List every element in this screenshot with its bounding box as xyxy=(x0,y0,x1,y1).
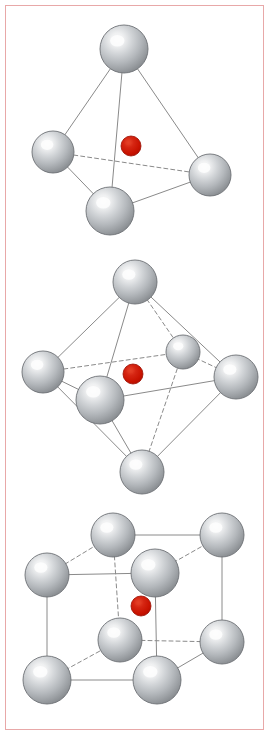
octahedral-ligand-bottom xyxy=(120,450,164,494)
octahedral-ligand-front xyxy=(76,376,124,424)
ligand-specular-highlight xyxy=(31,360,44,370)
ligand-sphere xyxy=(23,656,71,704)
ligand-specular-highlight xyxy=(100,522,113,533)
cubic-ligand-front-bottom-right xyxy=(133,656,181,704)
tetrahedral-ligand-left xyxy=(32,131,74,173)
cubic-ligand-back-top-left xyxy=(91,513,135,557)
octahedral-ligand-back xyxy=(166,335,200,369)
ligand-specular-highlight xyxy=(122,269,135,280)
ligand-sphere xyxy=(86,187,134,235)
ligand-sphere xyxy=(32,131,74,173)
ligand-sphere xyxy=(189,154,231,196)
ligand-specular-highlight xyxy=(223,364,236,375)
ligand-specular-highlight xyxy=(33,666,47,678)
ligand-specular-highlight xyxy=(41,140,54,150)
cubic-ligand-back-bottom-left xyxy=(98,618,142,662)
cubic-coordination-center-atom xyxy=(131,596,151,616)
center-atom-specular-highlight xyxy=(125,141,131,145)
ligand-sphere xyxy=(133,656,181,704)
ligand-sphere xyxy=(113,260,157,304)
octahedral-ligand-left xyxy=(22,351,64,393)
tetrahedral-coordination-bonds xyxy=(53,49,210,211)
ligand-sphere xyxy=(214,355,258,399)
tetrahedral-ligand-right xyxy=(189,154,231,196)
ligand-sphere xyxy=(91,513,135,557)
tetrahedral-ligand-apex xyxy=(100,25,148,73)
ligand-specular-highlight xyxy=(107,627,120,638)
cubic-ligand-front-top-left xyxy=(25,553,69,597)
center-atom-sphere xyxy=(131,596,151,616)
ligand-specular-highlight xyxy=(110,35,124,47)
tetrahedral-coordination-center-atom xyxy=(121,136,141,156)
ligand-sphere xyxy=(100,25,148,73)
cubic-ligand-back-top-right xyxy=(200,513,244,557)
ligand-specular-highlight xyxy=(209,629,222,640)
tetrahedral-ligand-front-bottom xyxy=(86,187,134,235)
ligand-specular-highlight xyxy=(86,386,100,398)
ligand-sphere xyxy=(76,376,124,424)
ligand-specular-highlight xyxy=(209,522,222,533)
atoms-layer xyxy=(22,25,258,704)
cubic-ligand-back-bottom-right xyxy=(200,620,244,664)
ligand-specular-highlight xyxy=(143,666,157,678)
ligand-sphere xyxy=(166,335,200,369)
ligand-specular-highlight xyxy=(173,342,183,350)
ligand-specular-highlight xyxy=(96,197,110,209)
octahedral-ligand-right xyxy=(214,355,258,399)
ligand-specular-highlight xyxy=(34,562,47,573)
ligand-specular-highlight xyxy=(141,559,155,571)
figure-panel: Coordination geometries of a central ato… xyxy=(0,0,270,736)
octahedral-coordination-atoms xyxy=(22,260,258,494)
octahedral-ligand-top xyxy=(113,260,157,304)
ligand-specular-highlight xyxy=(198,163,211,173)
ligand-sphere xyxy=(25,553,69,597)
ligand-sphere xyxy=(200,513,244,557)
ligand-specular-highlight xyxy=(129,459,142,470)
cubic-coordination-atoms xyxy=(23,513,244,704)
tetrahedral-coordination-atoms xyxy=(32,25,231,235)
ligand-sphere xyxy=(120,450,164,494)
center-atom-specular-highlight xyxy=(127,369,133,373)
center-atom-sphere xyxy=(123,364,143,384)
cubic-ligand-front-bottom-left xyxy=(23,656,71,704)
octahedral-coordination-center-atom xyxy=(123,364,143,384)
ligand-sphere xyxy=(98,618,142,662)
coordination-geometry-diagram xyxy=(0,0,270,736)
ligand-sphere xyxy=(200,620,244,664)
ligand-sphere xyxy=(22,351,64,393)
center-atom-specular-highlight xyxy=(135,601,141,605)
ligand-sphere xyxy=(131,549,179,597)
cubic-ligand-front-top-right xyxy=(131,549,179,597)
center-atom-sphere xyxy=(121,136,141,156)
